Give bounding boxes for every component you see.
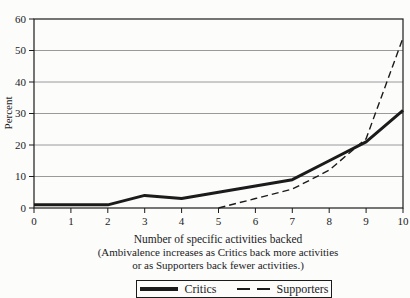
supporters-dashed-line-sample-icon	[237, 288, 270, 290]
legend-label-supporters: Supporters	[277, 282, 329, 297]
y-axis-title: Percent	[2, 97, 14, 130]
y-tick-label-30: 30	[15, 107, 27, 119]
x-axis-note-line1: (Ambivalence increases as Critics back m…	[30, 246, 406, 258]
x-axis-note-line2: or as Supporters back fewer activities.)	[30, 259, 406, 271]
line-chart-plot-area: 0102030405060012345678910	[0, 0, 410, 230]
x-tick-label-9: 9	[363, 215, 369, 227]
critics-line	[34, 110, 403, 205]
y-tick-label-20: 20	[15, 139, 27, 151]
x-tick-label-5: 5	[216, 215, 222, 227]
legend-item-supporters: Supporters	[237, 282, 329, 297]
legend-label-critics: Critics	[185, 282, 217, 297]
x-tick-label-3: 3	[142, 215, 148, 227]
y-tick-label-40: 40	[15, 76, 27, 88]
y-tick-label-50: 50	[15, 44, 27, 56]
ambivalence-line-chart-figure: 0102030405060012345678910 Percent Number…	[0, 0, 410, 298]
x-tick-label-1: 1	[68, 215, 74, 227]
y-tick-label-0: 0	[21, 202, 27, 214]
x-tick-label-4: 4	[179, 215, 185, 227]
x-axis-title: Number of specific activities backed	[30, 233, 406, 245]
legend-box: Critics Supporters	[136, 280, 332, 298]
x-tick-label-10: 10	[398, 215, 410, 227]
x-tick-label-8: 8	[326, 215, 332, 227]
x-tick-label-7: 7	[290, 215, 296, 227]
y-tick-label-60: 60	[15, 13, 27, 25]
x-tick-label-0: 0	[31, 215, 37, 227]
legend-item-critics: Critics	[140, 282, 217, 297]
critics-solid-line-sample-icon	[140, 287, 178, 291]
x-tick-label-2: 2	[105, 215, 111, 227]
supporters-line	[219, 38, 404, 208]
y-tick-label-10: 10	[15, 170, 27, 182]
x-tick-label-6: 6	[253, 215, 259, 227]
